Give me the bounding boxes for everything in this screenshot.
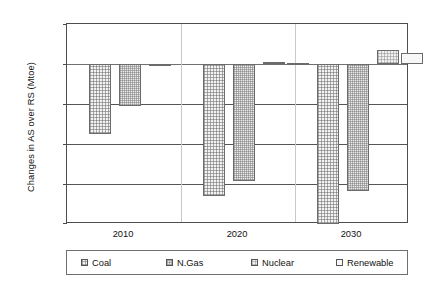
bar-ngas-2030 (347, 64, 369, 191)
bar-nuclear-2030 (377, 50, 399, 64)
x-tick-label-2020: 2020 (197, 229, 277, 239)
bar-ngas-2020 (233, 64, 255, 181)
y-tick-mark-40 (63, 24, 67, 25)
x-tick-label-2030: 2030 (311, 229, 391, 239)
legend-swatch-nuclear-icon (251, 259, 258, 266)
legend-label-renewable: Renewable (347, 258, 394, 268)
bar-coal-2030 (317, 64, 339, 224)
y-axis-title: Changes in AS over RS (Mtoe) (26, 27, 40, 227)
plot-area (66, 23, 408, 223)
legend-label-nuclear: Nuclear (262, 258, 294, 268)
y-tick-mark-m160 (63, 223, 67, 224)
bar-renewable-2020 (287, 63, 309, 65)
group-separator-2 (295, 24, 296, 222)
bar-ngas-2010 (119, 64, 141, 106)
group-separator-1 (181, 24, 182, 222)
plot-inner (67, 24, 407, 222)
chart-figure: Changes in AS over RS (Mtoe) 40 0 −40 −8… (0, 0, 429, 286)
legend-swatch-ngas-icon (166, 259, 173, 266)
x-tick-label-2010: 2010 (83, 229, 163, 239)
legend-swatch-renewable-icon (336, 259, 343, 266)
legend-item-ngas: N.Gas (152, 258, 237, 268)
bar-renewable-2030 (401, 53, 423, 64)
legend-item-nuclear: Nuclear (237, 258, 322, 268)
bar-coal-2020 (203, 64, 225, 196)
legend-label-ngas: N.Gas (177, 258, 203, 268)
chart-legend: Coal N.Gas Nuclear Renewable (66, 250, 408, 275)
legend-item-renewable: Renewable (322, 258, 407, 268)
legend-swatch-coal-icon (81, 259, 88, 266)
bar-nuclear-2010 (149, 64, 171, 66)
bar-nuclear-2020 (263, 62, 285, 64)
bar-coal-2010 (89, 64, 111, 134)
legend-item-coal: Coal (67, 258, 152, 268)
legend-label-coal: Coal (92, 258, 111, 268)
